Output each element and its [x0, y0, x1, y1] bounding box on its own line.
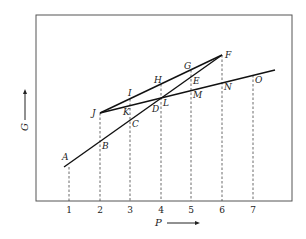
- x-tick-label: 2: [97, 205, 103, 215]
- plot-frame: [36, 15, 292, 201]
- x-axis-title: P: [154, 217, 162, 228]
- point-label-n: N: [223, 82, 233, 92]
- y-axis-label: G: [19, 89, 30, 131]
- point-label-m: M: [192, 90, 203, 100]
- point-label-d: D: [151, 104, 159, 114]
- point-label-o: O: [255, 75, 263, 85]
- x-tick-label: 7: [250, 205, 256, 215]
- point-label-i: I: [127, 88, 132, 98]
- x-tick-label: 5: [188, 205, 194, 215]
- y-axis-title: G: [19, 123, 30, 131]
- point-label-e: E: [192, 76, 200, 86]
- point-label-a: A: [61, 152, 69, 162]
- point-label-c: C: [132, 119, 139, 129]
- point-label-j: J: [90, 108, 97, 118]
- x-tick-label: 3: [127, 205, 133, 215]
- x-tick-label: 6: [219, 205, 225, 215]
- point-label-k: K: [122, 107, 131, 117]
- point-labels: ABCDEFGHIJKLMNO: [61, 50, 263, 162]
- point-label-b: B: [101, 141, 109, 151]
- diagram-lines: [64, 55, 275, 167]
- x-tick-label: 4: [158, 205, 164, 215]
- diagram: 1234567 ABCDEFGHIJKLMNO P G: [0, 0, 306, 239]
- x-arrowhead-icon: [195, 221, 200, 225]
- line-a-f: [64, 55, 222, 167]
- x-tick-label: 1: [66, 205, 72, 215]
- point-label-f: F: [224, 50, 232, 60]
- x-axis-label: P: [154, 217, 200, 228]
- x-axis-ticks: 1234567: [66, 205, 256, 215]
- y-arrowhead-icon: [23, 89, 27, 94]
- point-label-l: L: [162, 98, 169, 108]
- point-label-g: G: [184, 61, 191, 71]
- point-label-h: H: [153, 75, 162, 85]
